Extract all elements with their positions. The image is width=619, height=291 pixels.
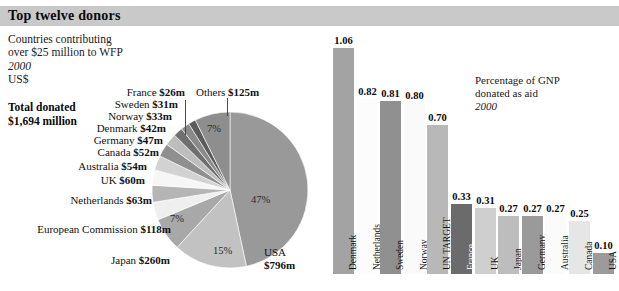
- gnp-note: Percentage of GNP donated as aid 2000: [475, 74, 605, 113]
- bar-value-france: 0.33: [448, 191, 475, 202]
- pie-chart: France $26m Sweden $31m Norway $33m Denm…: [0, 0, 340, 291]
- pie-label-france: France $26m: [60, 86, 185, 99]
- bar-chart: Percentage of GNP donated as aid 2000 1.…: [310, 0, 619, 291]
- pie-label-australia: Australia $54m: [20, 160, 147, 173]
- bar-value-japan: 0.27: [495, 203, 522, 214]
- pie-pct-japan: 15%: [213, 245, 232, 256]
- leader-line-france: [185, 100, 186, 135]
- pie-label-japan: Japan $260m: [60, 254, 170, 267]
- bar-value-sweden: 0.81: [377, 88, 404, 99]
- pie-pct-others: 7%: [207, 123, 221, 134]
- infographic-page: Top twelve donors Countries contributing…: [0, 0, 619, 291]
- gnp-note-year: 2000: [475, 100, 605, 113]
- bar-value-canada: 0.25: [566, 208, 593, 219]
- pie-pct-usa: 47%: [251, 194, 270, 205]
- pie-label-european-commission: European Commission $118m: [6, 223, 171, 236]
- pie-label-uk: UK $60m: [20, 174, 145, 187]
- pie-label-netherlands: Netherlands $63m: [10, 194, 152, 207]
- bar-value-denmark: 1.06: [330, 35, 357, 46]
- pie-label-usa: USA$796m: [264, 246, 295, 272]
- bar-label-usa: USA: [608, 251, 618, 270]
- pie-label-others: Others $125m: [196, 86, 259, 99]
- bar-value-usa: 0.10: [590, 240, 617, 251]
- bar-value-un-target: 0.70: [424, 112, 451, 123]
- pie-label-canada: Canada $52m: [26, 146, 159, 159]
- pie-label-norway: Norway $33m: [40, 110, 172, 123]
- pie-label-sweden: Sweden $31m: [40, 98, 178, 111]
- gnp-note-line-2: donated as aid: [475, 87, 605, 100]
- pie-label-germany: Germany $47m: [26, 134, 163, 147]
- gnp-note-line-1: Percentage of GNP: [475, 74, 605, 87]
- pie-pct-european-commission: 7%: [170, 213, 184, 224]
- bar-value-australia: 0.27: [542, 203, 569, 214]
- bar-value-norway: 0.80: [401, 90, 428, 101]
- pie-label-denmark: Denmark $42m: [30, 122, 166, 135]
- leader-line-others: [227, 98, 228, 116]
